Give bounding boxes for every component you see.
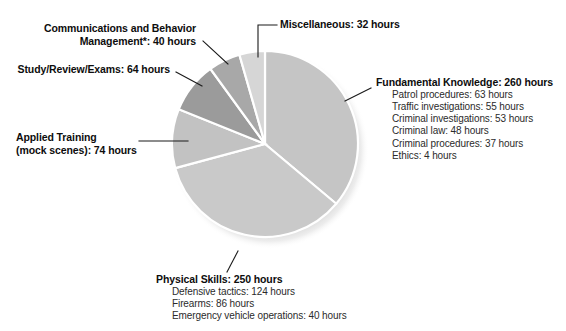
leader-line-communications [203, 41, 228, 64]
label-study-review-exams: Study/Review/Exams: 64 hours [0, 63, 170, 76]
label-communications-line1: Communications and Behavior [0, 22, 196, 35]
breakdown-item: Traffic investigations: 55 hours [392, 101, 553, 113]
label-physical-title: Physical Skills: 250 hours [156, 273, 347, 286]
label-applied-line1: Applied Training [16, 131, 137, 144]
label-communications-behavior: Communications and Behavior Management*:… [0, 22, 196, 48]
breakdown-item: Defensive tactics: 124 hours [172, 286, 347, 298]
label-fundamental-title: Fundamental Knowledge: 260 hours [376, 76, 553, 89]
label-physical-breakdown: Defensive tactics: 124 hours Firearms: 8… [156, 286, 347, 323]
label-physical-skills: Physical Skills: 250 hours Defensive tac… [156, 273, 347, 322]
pie-slices [172, 51, 358, 237]
label-communications-line2: Management*: 40 hours [0, 35, 196, 48]
breakdown-item: Ethics: 4 hours [392, 150, 553, 162]
label-miscellaneous-title: Miscellaneous: 32 hours [280, 18, 400, 31]
breakdown-item: Firearms: 86 hours [172, 298, 347, 310]
breakdown-item: Emergency vehicle operations: 40 hours [172, 310, 347, 322]
label-applied-training: Applied Training (mock scenes): 74 hours [16, 131, 137, 157]
label-miscellaneous: Miscellaneous: 32 hours [280, 18, 400, 31]
breakdown-item: Criminal law: 48 hours [392, 125, 553, 137]
label-study-title: Study/Review/Exams: 64 hours [0, 63, 170, 76]
label-applied-line2: (mock scenes): 74 hours [16, 144, 137, 157]
leader-line-physical [227, 251, 238, 272]
label-fundamental-breakdown: Patrol procedures: 63 hours Traffic inve… [376, 89, 553, 162]
label-fundamental-knowledge: Fundamental Knowledge: 260 hours Patrol … [376, 76, 553, 162]
breakdown-item: Patrol procedures: 63 hours [392, 89, 553, 101]
breakdown-item: Criminal procedures: 37 hours [392, 138, 553, 150]
breakdown-item: Criminal investigations: 53 hours [392, 113, 553, 125]
pie-chart-figure: Miscellaneous: 32 hours Communications a… [0, 0, 566, 331]
